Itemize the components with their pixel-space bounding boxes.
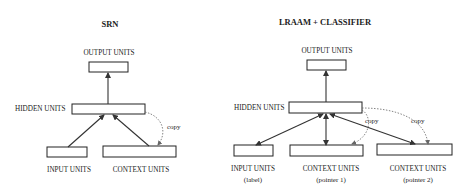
srn-diagram: SRN OUTPUT UNITS HIDDEN UNITS INPUT UNIT…	[15, 19, 181, 174]
lraam-copy1-label: copy	[365, 117, 379, 125]
lraam-context1-sub: (pointer 1)	[316, 176, 346, 184]
lraam-context1-box	[290, 145, 363, 156]
lraam-copy2-arrow	[362, 108, 428, 144]
srn-hidden-label: HIDDEN UNITS	[15, 105, 66, 113]
lraam-title: LRAAM + CLASSIFIER	[279, 17, 372, 27]
lraam-hidden-input-arrow	[256, 114, 323, 145]
lraam-input-sub: (label)	[244, 176, 263, 184]
srn-input-label: INPUT UNITS	[47, 166, 91, 174]
lraam-input-label: INPUT UNITS	[231, 165, 275, 173]
srn-context-label: CONTEXT UNITS	[113, 166, 169, 174]
srn-output-label: OUTPUT UNITS	[83, 49, 134, 57]
lraam-copy2-label: copy	[411, 117, 425, 125]
network-diagrams: SRN OUTPUT UNITS HIDDEN UNITS INPUT UNIT…	[0, 0, 476, 192]
lraam-context2-label: CONTEXT UNITS	[390, 165, 446, 173]
lraam-input-box	[234, 145, 273, 156]
lraam-context1-label: CONTEXT UNITS	[303, 165, 359, 173]
lraam-output-label: OUTPUT UNITS	[301, 47, 352, 55]
lraam-diagram: LRAAM + CLASSIFIER OUTPUT UNITS HIDDEN U…	[231, 17, 452, 184]
srn-context-to-hidden-arrow	[113, 115, 149, 146]
lraam-context2-sub: (pointer 2)	[403, 176, 433, 184]
lraam-context2-box	[377, 144, 452, 155]
lraam-hidden-box	[289, 102, 362, 113]
srn-context-box	[103, 146, 176, 157]
srn-output-box	[89, 62, 128, 72]
srn-copy-label: copy	[167, 123, 181, 131]
lraam-hidden-label: HIDDEN UNITS	[234, 104, 285, 112]
srn-input-box	[47, 147, 87, 157]
lraam-output-box	[307, 60, 346, 70]
srn-copy-arrow	[145, 112, 163, 145]
srn-title: SRN	[101, 19, 119, 29]
srn-input-to-hidden-arrow	[68, 115, 104, 147]
srn-hidden-box	[72, 104, 145, 114]
